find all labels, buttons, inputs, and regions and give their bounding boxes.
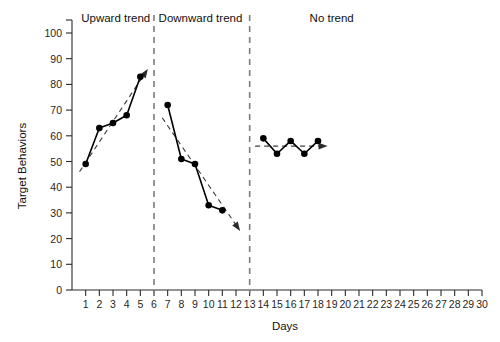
y-axis-tick-label: 80 bbox=[50, 78, 62, 90]
y-axis-tick-label: 100 bbox=[44, 27, 62, 39]
y-axis-tick-label: 70 bbox=[50, 104, 62, 116]
data-point bbox=[315, 138, 322, 145]
x-axis-tick-label: 28 bbox=[449, 298, 461, 310]
x-axis-tick-label: 16 bbox=[285, 298, 297, 310]
data-point bbox=[82, 161, 89, 168]
x-axis-tick-label: 26 bbox=[421, 298, 433, 310]
y-axis-tick-label: 40 bbox=[50, 181, 62, 193]
y-axis-tick-label: 30 bbox=[50, 207, 62, 219]
trend-chart: 0102030405060708090100 12345678910111213… bbox=[0, 0, 500, 342]
x-axis-tick-label: 5 bbox=[137, 298, 143, 310]
x-axis-tick-label: 8 bbox=[178, 298, 184, 310]
x-axis-tick-label: 23 bbox=[380, 298, 392, 310]
x-axis-tick-label: 14 bbox=[257, 298, 269, 310]
y-axis-tick-label: 60 bbox=[50, 130, 62, 142]
x-axis-tick-label: 4 bbox=[124, 298, 130, 310]
y-axis-tick-label: 0 bbox=[56, 284, 62, 296]
x-axis-tick-label: 6 bbox=[151, 298, 157, 310]
data-point bbox=[287, 138, 294, 145]
x-axis-title: Days bbox=[272, 320, 298, 332]
x-axis-tick-label: 9 bbox=[192, 298, 198, 310]
x-axis-tick-label: 19 bbox=[326, 298, 338, 310]
data-point bbox=[110, 120, 117, 127]
data-point bbox=[205, 202, 212, 209]
x-axis-tick-label: 29 bbox=[462, 298, 474, 310]
x-axis-tick-label: 18 bbox=[312, 298, 324, 310]
y-axis-title: Target Behaviors bbox=[16, 123, 28, 210]
x-axis-tick-label: 25 bbox=[408, 298, 420, 310]
data-point bbox=[274, 150, 281, 157]
x-axis-tick-label: 30 bbox=[476, 298, 488, 310]
data-point bbox=[178, 156, 185, 163]
x-axis-tick-label: 7 bbox=[165, 298, 171, 310]
x-axis-tick-label: 2 bbox=[96, 298, 102, 310]
x-axis-tick-label: 10 bbox=[203, 298, 215, 310]
phase-label: No trend bbox=[310, 12, 354, 24]
x-axis-tick-label: 22 bbox=[367, 298, 379, 310]
data-point bbox=[96, 125, 103, 132]
phase-label-group: Upward trendDownward trendNo trend bbox=[81, 12, 354, 24]
data-point bbox=[164, 102, 171, 109]
phase-label: Downward trend bbox=[159, 12, 243, 24]
x-axis-tick-label: 1 bbox=[83, 298, 89, 310]
chart-canvas: 0102030405060708090100 12345678910111213… bbox=[0, 0, 500, 342]
x-axis-tick-label: 20 bbox=[339, 298, 351, 310]
data-point bbox=[192, 161, 199, 168]
data-point bbox=[219, 207, 226, 214]
data-point bbox=[123, 112, 130, 119]
x-axis-tick-label: 17 bbox=[298, 298, 310, 310]
x-axis-tick-label: 27 bbox=[435, 298, 447, 310]
x-axis-tick-label: 24 bbox=[394, 298, 406, 310]
data-point bbox=[301, 150, 308, 157]
y-axis-tick-label: 10 bbox=[50, 258, 62, 270]
y-axis-tick-label: 90 bbox=[50, 53, 62, 65]
x-axis-tick-label: 12 bbox=[230, 298, 242, 310]
data-point bbox=[137, 73, 144, 80]
phase-label: Upward trend bbox=[81, 12, 150, 24]
x-axis-tick-label: 15 bbox=[271, 298, 283, 310]
y-axis-tick-label: 50 bbox=[50, 156, 62, 168]
x-axis-tick-label: 21 bbox=[353, 298, 365, 310]
x-axis-tick-label: 13 bbox=[244, 298, 256, 310]
y-axis-tick-label: 20 bbox=[50, 233, 62, 245]
x-axis-tick-label: 3 bbox=[110, 298, 116, 310]
data-point bbox=[260, 135, 267, 142]
x-axis-tick-label: 11 bbox=[217, 298, 228, 310]
